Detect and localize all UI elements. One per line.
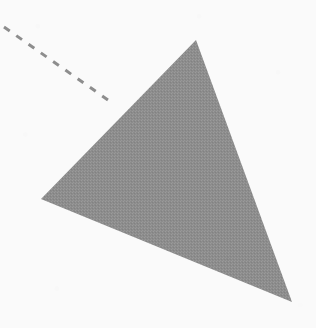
geometric-figure xyxy=(0,0,316,328)
figure-canvas xyxy=(0,0,316,328)
